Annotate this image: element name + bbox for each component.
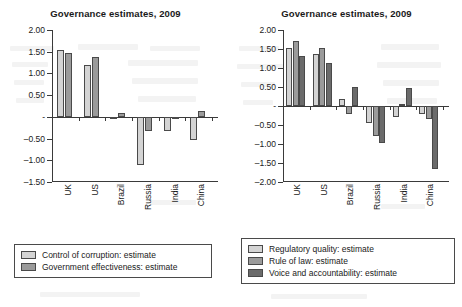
bar-us-rule-of-law[interactable] [319, 48, 325, 106]
bar-group-russia-right [363, 30, 390, 182]
bar-group-us-right [310, 30, 337, 182]
x-label-right-china: China [425, 184, 435, 206]
bar-brazil-government-effectiveness[interactable] [118, 113, 125, 117]
y-tick-label-right-1: 1.50 [259, 44, 276, 54]
bar-group-brazil-right [336, 30, 363, 182]
bar-group-us-left [79, 30, 106, 182]
y-tick-label-left-3: 0.50 [28, 90, 45, 100]
legend-swatch-icon-regulatory-quality [248, 245, 263, 253]
bar-india-rule-of-law[interactable] [399, 104, 405, 106]
y-tick-label-right-4: - [273, 101, 276, 111]
x-label-right-russia: Russia [372, 184, 382, 210]
bar-group-india-left [159, 30, 186, 182]
y-tick-right-8 [278, 182, 283, 183]
bar-russia-rule-of-law[interactable] [373, 106, 379, 136]
legend-swatch-icon-rule-of-law [248, 257, 263, 265]
bar-india-control-of-corruption[interactable] [164, 117, 171, 131]
x-label-left-russia: Russia [143, 184, 153, 210]
legend-item-government-effectiveness[interactable]: Government effectiveness: estimate [21, 261, 205, 273]
bar-us-government-effectiveness[interactable] [92, 57, 99, 117]
bar-series-right [283, 30, 443, 182]
x-label-left-india: India [170, 184, 180, 202]
y-tick-label-left-7: –1.50 [24, 177, 45, 187]
legend-item-voice-and-accountability[interactable]: Voice and accountability: estimate [248, 267, 448, 279]
x-category-labels-left: UK US Brazil Russia India China [52, 184, 212, 236]
y-tick-label-left-0: 2.00 [28, 25, 45, 35]
x-category-labels-right: UK US Brazil Russia India China [283, 184, 443, 236]
bar-brazil-regulatory-quality[interactable] [339, 99, 345, 106]
legend-label-control-of-corruption: Control of corruption: estimate [42, 250, 156, 260]
y-tick-label-right-6: –1.00 [255, 139, 276, 149]
legend-left: Control of corruption: estimate Governme… [14, 244, 212, 278]
legend-item-regulatory-quality[interactable]: Regulatory quality: estimate [248, 243, 448, 255]
x-label-left-china: China [196, 184, 206, 206]
bar-group-china-right [416, 30, 443, 182]
bar-india-regulatory-quality[interactable] [393, 106, 399, 117]
bar-uk-government-effectiveness[interactable] [65, 53, 72, 117]
bar-group-india-right [390, 30, 417, 182]
bar-china-regulatory-quality[interactable] [419, 106, 425, 114]
y-tick-label-right-0: 2.00 [259, 25, 276, 35]
y-tick-label-right-7: –1.50 [255, 158, 276, 168]
bar-russia-regulatory-quality[interactable] [366, 106, 372, 123]
legend-label-regulatory-quality: Regulatory quality: estimate [269, 244, 374, 254]
y-tick-left-7 [47, 182, 52, 183]
legend-right: Regulatory quality: estimate Rule of law… [241, 238, 455, 284]
y-tick-label-right-5: –0.50 [255, 120, 276, 130]
bar-group-brazil-left [105, 30, 132, 182]
bar-us-regulatory-quality[interactable] [313, 54, 319, 106]
legend-swatch-icon-government-effectiveness [21, 263, 36, 271]
bar-series-left [52, 30, 212, 182]
bar-brazil-rule-of-law[interactable] [346, 106, 352, 114]
bar-us-voice-and-accountability[interactable] [326, 63, 332, 106]
bar-group-uk-right [283, 30, 310, 182]
x-tick-left-6 [212, 117, 213, 121]
chart-panel-right: Governance estimates, 2009 2.00 1.50 1.0… [231, 0, 462, 307]
x-label-right-brazil: Brazil [345, 184, 355, 205]
x-label-right-us: US [319, 184, 329, 196]
legend-swatch-icon-control-of-corruption [21, 251, 36, 259]
bar-uk-control-of-corruption[interactable] [57, 50, 64, 117]
x-label-left-brazil: Brazil [116, 184, 126, 205]
bar-group-russia-left [132, 30, 159, 182]
bar-china-control-of-corruption[interactable] [190, 117, 197, 140]
x-label-right-uk: UK [292, 184, 302, 196]
legend-label-government-effectiveness: Government effectiveness: estimate [42, 262, 177, 272]
y-tick-label-left-4: - [42, 112, 45, 122]
y-tick-label-right-2: 1.00 [259, 63, 276, 73]
x-label-left-uk: UK [63, 184, 73, 196]
legend-swatch-icon-voice-and-accountability [248, 269, 263, 277]
plot-area-left: 2.00 1.50 1.00 0.50 - –0.50 –1.00 –1.50 [52, 30, 212, 182]
bar-group-china-left [185, 30, 212, 182]
legend-label-rule-of-law: Rule of law: estimate [269, 256, 348, 266]
plot-area-right: 2.00 1.50 1.00 0.50 - –0.50 –1.00 –1.50 … [283, 30, 443, 182]
y-tick-label-right-3: 0.50 [259, 82, 276, 92]
bar-us-control-of-corruption[interactable] [84, 65, 91, 117]
bar-china-rule-of-law[interactable] [426, 106, 432, 119]
x-tick-right-6 [443, 106, 444, 110]
bar-group-uk-left [52, 30, 79, 182]
y-tick-label-right-8: –2.00 [255, 177, 276, 187]
bar-russia-control-of-corruption[interactable] [137, 117, 144, 166]
y-tick-label-left-5: –0.50 [24, 134, 45, 144]
figure-container: Governance estimates, 2009 2.00 1.50 1.0… [0, 0, 462, 307]
y-tick-label-left-2: 1.00 [28, 68, 45, 78]
legend-item-control-of-corruption[interactable]: Control of corruption: estimate [21, 249, 205, 261]
legend-item-rule-of-law[interactable]: Rule of law: estimate [248, 255, 448, 267]
x-label-right-india: India [399, 184, 409, 202]
bar-brazil-voice-and-accountability[interactable] [352, 87, 358, 106]
bar-uk-regulatory-quality[interactable] [286, 48, 292, 106]
bar-india-government-effectiveness[interactable] [172, 117, 179, 119]
y-tick-label-left-1: 1.50 [28, 47, 45, 57]
bar-china-voice-and-accountability[interactable] [432, 106, 438, 169]
bar-russia-government-effectiveness[interactable] [145, 117, 152, 131]
bar-russia-voice-and-accountability[interactable] [379, 106, 385, 143]
y-tick-label-left-6: –1.00 [24, 155, 45, 165]
bar-uk-rule-of-law[interactable] [293, 41, 299, 106]
bar-uk-voice-and-accountability[interactable] [299, 56, 305, 106]
chart-panel-left: Governance estimates, 2009 2.00 1.50 1.0… [0, 0, 231, 307]
bar-brazil-control-of-corruption[interactable] [110, 117, 117, 119]
bar-china-government-effectiveness[interactable] [198, 111, 205, 117]
bar-india-voice-and-accountability[interactable] [406, 88, 412, 106]
x-label-left-us: US [90, 184, 100, 196]
